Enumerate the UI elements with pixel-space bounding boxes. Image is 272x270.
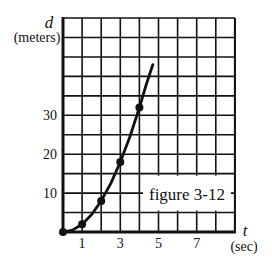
x-tick-label: 5 (155, 236, 162, 251)
x-tick-label: 7 (193, 236, 200, 251)
figure-caption: figure 3-12 (149, 185, 225, 204)
x-tick-label: 3 (117, 236, 124, 251)
x-axis-unit: (sec) (230, 239, 258, 255)
distance-time-chart: figure 3-12 1357102030 d (meters) t (sec… (0, 0, 272, 270)
data-point-marker (78, 220, 86, 228)
data-point-marker (116, 158, 124, 166)
data-point-marker (59, 228, 67, 236)
y-tick-label: 10 (43, 186, 57, 201)
data-point-marker (97, 197, 105, 205)
caption-box: figure 3-12 (143, 176, 231, 211)
distance-time-figure: figure 3-12 1357102030 d (meters) t (sec… (0, 0, 272, 270)
data-point-marker (135, 104, 143, 112)
x-axis-variable: t (243, 221, 249, 240)
x-tick-label: 1 (79, 236, 86, 251)
y-axis-unit: (meters) (14, 30, 61, 46)
y-tick-label: 20 (43, 147, 57, 162)
y-tick-label: 30 (43, 108, 57, 123)
